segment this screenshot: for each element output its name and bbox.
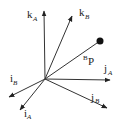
svg-text:A: A xyxy=(26,113,32,121)
label-P: B P xyxy=(83,54,94,67)
label-k-B: k B xyxy=(79,6,90,21)
svg-text:j: j xyxy=(103,62,107,74)
label-i-B: i B xyxy=(10,72,18,87)
label-j-B: j B xyxy=(90,91,100,105)
svg-text:B: B xyxy=(95,97,100,105)
svg-text:B: B xyxy=(13,79,18,87)
coordinate-frames-diagram: k A k B B P j A j B i B i A xyxy=(0,0,120,124)
label-i-A: i A xyxy=(24,107,32,121)
axis-j-A xyxy=(45,79,110,80)
point-P xyxy=(97,38,104,45)
axis-i-A xyxy=(20,79,45,110)
svg-text:j: j xyxy=(90,91,94,103)
svg-text:B: B xyxy=(85,13,90,21)
label-j-A: j A xyxy=(103,62,113,77)
label-k-A: k A xyxy=(27,8,38,23)
svg-text:A: A xyxy=(32,15,38,23)
axis-k-A xyxy=(44,11,45,79)
svg-text:A: A xyxy=(107,69,113,77)
svg-text:P: P xyxy=(88,55,94,67)
